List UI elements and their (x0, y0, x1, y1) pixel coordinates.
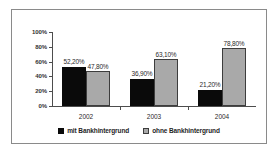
y-axis-tick-mark (49, 62, 52, 63)
y-axis-tick-mark (49, 32, 52, 33)
bar-2003-series1: 63,10% (154, 59, 178, 106)
y-axis-tick-mark (49, 106, 52, 107)
bar-2003-series0: 36,90% (130, 79, 154, 106)
bar-value-label: 21,20% (200, 81, 221, 88)
legend-item-label: ohne Bankhintergrund (152, 127, 220, 134)
x-axis-category-separator (120, 107, 121, 110)
bar-value-label: 63,10% (156, 51, 177, 58)
gray-square-icon (143, 128, 149, 134)
x-axis-category-label: 2004 (215, 113, 229, 120)
bar-2002-series1: 47,80% (86, 71, 110, 106)
chart-frame: 0%20%40%60%80%100% 52,20%47,80%36,90%63,… (11, 9, 267, 144)
x-axis-category-label: 2003 (147, 113, 161, 120)
y-axis-line (52, 32, 53, 107)
bar-2004-series1: 78,80% (222, 48, 246, 106)
y-axis-tick-mark (49, 76, 52, 77)
y-axis-tick-label: 40% (35, 73, 47, 79)
y-axis-tick-mark (49, 47, 52, 48)
y-axis-tick-label: 0% (39, 103, 47, 109)
y-axis-tick-mark (49, 91, 52, 92)
black-square-icon (58, 128, 64, 134)
bar-value-label: 52,20% (64, 58, 85, 65)
legend-item-1[interactable]: ohne Bankhintergrund (143, 127, 220, 134)
bar-2002-series0: 52,20% (62, 67, 86, 106)
bar-value-label: 78,80% (224, 40, 245, 47)
legend-item-label: mit Bankhintergrund (67, 127, 129, 134)
x-axis-category-separator (188, 107, 189, 110)
y-axis-tick-label: 60% (35, 59, 47, 65)
bar-value-label: 47,80% (88, 63, 109, 70)
plot-area: 0%20%40%60%80%100% 52,20%47,80%36,90%63,… (52, 32, 256, 107)
legend-item-0[interactable]: mit Bankhintergrund (58, 127, 129, 134)
x-axis-category-label: 2002 (79, 113, 93, 120)
y-axis-tick-label: 20% (35, 88, 47, 94)
x-axis-line (52, 106, 256, 107)
bar-2004-series0: 21,20% (198, 90, 222, 106)
y-axis-tick-label: 100% (32, 29, 47, 35)
bar-value-label: 36,90% (132, 70, 153, 77)
chart-legend: mit Bankhintergrundohne Bankhintergrund (12, 127, 266, 134)
y-axis-tick-label: 80% (35, 44, 47, 50)
